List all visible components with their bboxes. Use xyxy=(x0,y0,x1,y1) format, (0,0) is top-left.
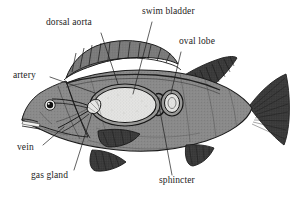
label-vein: vein xyxy=(17,142,34,153)
label-swim-bladder: swim bladder xyxy=(142,6,195,17)
label-dorsal-aorta: dorsal aorta xyxy=(46,17,92,28)
oval-lobe xyxy=(161,90,183,116)
label-oval-lobe: oval lobe xyxy=(179,36,215,47)
label-sphincter: sphincter xyxy=(159,175,195,186)
fish-anatomy-illustration xyxy=(0,0,300,197)
label-artery: artery xyxy=(13,70,36,81)
anatomy-figure: dorsal aorta swim bladder oval lobe arte… xyxy=(0,0,300,197)
eye xyxy=(45,100,55,110)
label-gas-gland: gas gland xyxy=(31,170,68,181)
